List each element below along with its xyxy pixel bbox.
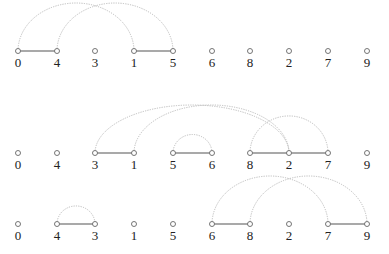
node-circle xyxy=(55,49,60,54)
node-circle xyxy=(365,151,370,156)
node-label: 6 xyxy=(209,228,216,243)
node-label: 1 xyxy=(131,157,138,172)
node-label: 4 xyxy=(54,228,61,243)
node-label: 0 xyxy=(15,228,22,243)
node-circle xyxy=(248,222,253,227)
node-circle xyxy=(132,49,137,54)
node-label: 6 xyxy=(209,157,216,172)
node-circle xyxy=(287,222,292,227)
node-label: 1 xyxy=(131,228,138,243)
node-circle xyxy=(326,151,331,156)
node-circle xyxy=(93,49,98,54)
node-label: 5 xyxy=(170,157,177,172)
node-label: 9 xyxy=(364,157,371,172)
node-circle xyxy=(93,222,98,227)
dotted-arc xyxy=(212,176,328,224)
dotted-arc xyxy=(134,105,289,153)
node-label: 2 xyxy=(286,55,293,70)
node-circle xyxy=(326,222,331,227)
node-label: 7 xyxy=(325,228,332,243)
node-label: 1 xyxy=(131,55,138,70)
dotted-arc xyxy=(250,116,328,153)
node-label: 9 xyxy=(364,228,371,243)
node-circle xyxy=(210,49,215,54)
node-circle xyxy=(132,222,137,227)
node-label: 8 xyxy=(247,228,254,243)
node-circle xyxy=(365,222,370,227)
node-circle xyxy=(287,49,292,54)
node-label: 6 xyxy=(209,55,216,70)
node-circle xyxy=(132,151,137,156)
node-label: 0 xyxy=(15,157,22,172)
node-circle xyxy=(210,151,215,156)
node-label: 2 xyxy=(286,157,293,172)
node-circle xyxy=(171,151,176,156)
node-circle xyxy=(16,222,21,227)
node-circle xyxy=(287,151,292,156)
dotted-arc xyxy=(173,134,212,153)
node-label: 4 xyxy=(54,55,61,70)
node-label: 7 xyxy=(325,55,332,70)
node-circle xyxy=(16,49,21,54)
node-label: 5 xyxy=(170,228,177,243)
arc-diagram: 043156827904315682790431568279 xyxy=(0,0,389,254)
node-label: 3 xyxy=(92,157,99,172)
node-circle xyxy=(210,222,215,227)
node-circle xyxy=(248,49,253,54)
node-label: 4 xyxy=(54,157,61,172)
dotted-arc xyxy=(57,206,95,224)
node-label: 5 xyxy=(170,55,177,70)
dotted-arc xyxy=(57,3,173,51)
node-label: 8 xyxy=(247,157,254,172)
node-circle xyxy=(93,151,98,156)
node-circle xyxy=(171,222,176,227)
node-label: 0 xyxy=(15,55,22,70)
node-circle xyxy=(55,151,60,156)
node-circle xyxy=(326,49,331,54)
node-circle xyxy=(365,49,370,54)
node-label: 2 xyxy=(286,228,293,243)
node-circle xyxy=(171,49,176,54)
node-label: 3 xyxy=(92,228,99,243)
node-circle xyxy=(248,151,253,156)
node-circle xyxy=(16,151,21,156)
node-label: 3 xyxy=(92,55,99,70)
node-label: 8 xyxy=(247,55,254,70)
dotted-arc xyxy=(18,3,134,51)
node-label: 7 xyxy=(325,157,332,172)
dotted-arc xyxy=(250,176,367,224)
node-label: 9 xyxy=(364,55,371,70)
node-circle xyxy=(55,222,60,227)
